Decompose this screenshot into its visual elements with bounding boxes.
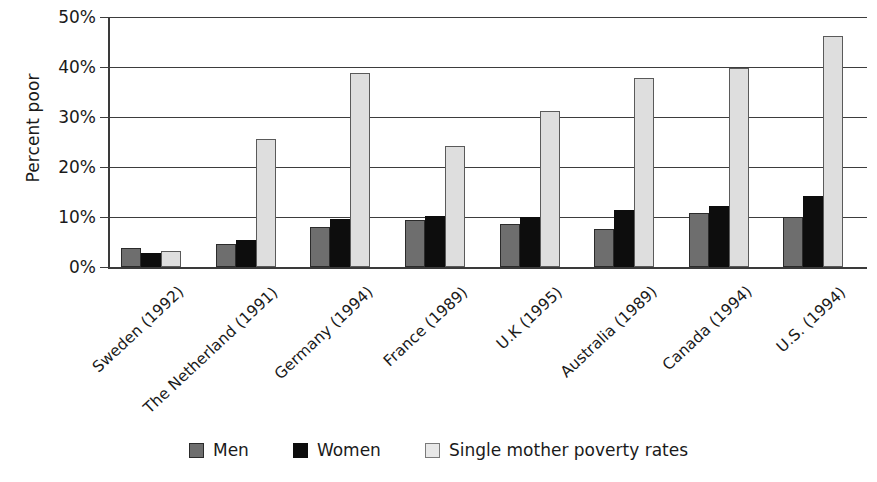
bar-single [445,146,465,267]
legend-swatch-single [425,443,440,458]
bar-group [500,17,560,267]
legend-label: Women [317,440,381,460]
bar-women [520,217,540,267]
x-axis-label: U.K (1995) [493,283,566,353]
bar-women [330,219,350,267]
chart-legend: MenWomenSingle mother poverty rates [0,440,877,460]
bar-group [405,17,465,267]
bar-men [783,217,803,267]
bar-single [729,68,749,267]
legend-item: Single mother poverty rates [425,440,688,460]
legend-swatch-women [293,443,308,458]
bar-women [614,210,634,267]
bar-single [350,73,370,267]
bar-men [216,244,236,268]
bar-single [634,78,654,268]
bar-group [216,17,276,267]
bar-single [161,251,181,267]
y-axis-tick-label: 10% [58,207,96,227]
plot-area: 0%10%20%30%40%50% [108,17,867,269]
legend-item: Men [189,440,249,460]
bar-single [823,36,843,268]
y-axis-tick-mark [100,67,110,68]
x-axis-label: France (1989) [380,283,471,370]
legend-item: Women [293,440,381,460]
x-axis-label: U.S. (1994) [773,283,849,356]
legend-swatch-men [189,443,204,458]
bar-women [425,216,445,268]
y-axis-tick-label: 50% [58,7,96,27]
bar-group [689,17,749,267]
y-axis-tick-mark [100,17,110,18]
x-axis-label: Australia (1989) [557,283,661,381]
bar-men [689,213,709,267]
y-axis-tick-label: 40% [58,57,96,77]
x-axis-label: Sweden (1992) [89,283,187,376]
legend-label: Men [213,440,249,460]
bar-men [594,229,614,267]
bar-men [405,220,425,268]
x-axis-label: Germany (1994) [271,283,377,383]
x-axis-label: Canada (1994) [659,283,756,375]
legend-label: Single mother poverty rates [449,440,688,460]
bar-women [141,253,161,267]
bar-men [310,227,330,267]
bar-single [256,139,276,267]
y-axis-tick-mark [100,117,110,118]
bar-men [121,248,141,267]
bar-group [594,17,654,267]
y-axis-tick-label: 20% [58,157,96,177]
bar-women [803,196,823,267]
y-axis-tick-mark [100,217,110,218]
bar-group [310,17,370,267]
bar-group [783,17,843,267]
bar-chart: Percent poor 0%10%20%30%40%50% Sweden (1… [0,0,877,482]
bar-men [500,224,520,268]
y-axis-title: Percent poor [23,48,43,208]
y-axis-tick-mark [100,167,110,168]
bar-women [236,240,256,267]
bar-group [121,17,181,267]
y-axis-tick-label: 30% [58,107,96,127]
bar-women [709,206,729,268]
bar-single [540,111,560,268]
x-axis-labels: Sweden (1992)The Netherland (1991)German… [0,267,877,417]
